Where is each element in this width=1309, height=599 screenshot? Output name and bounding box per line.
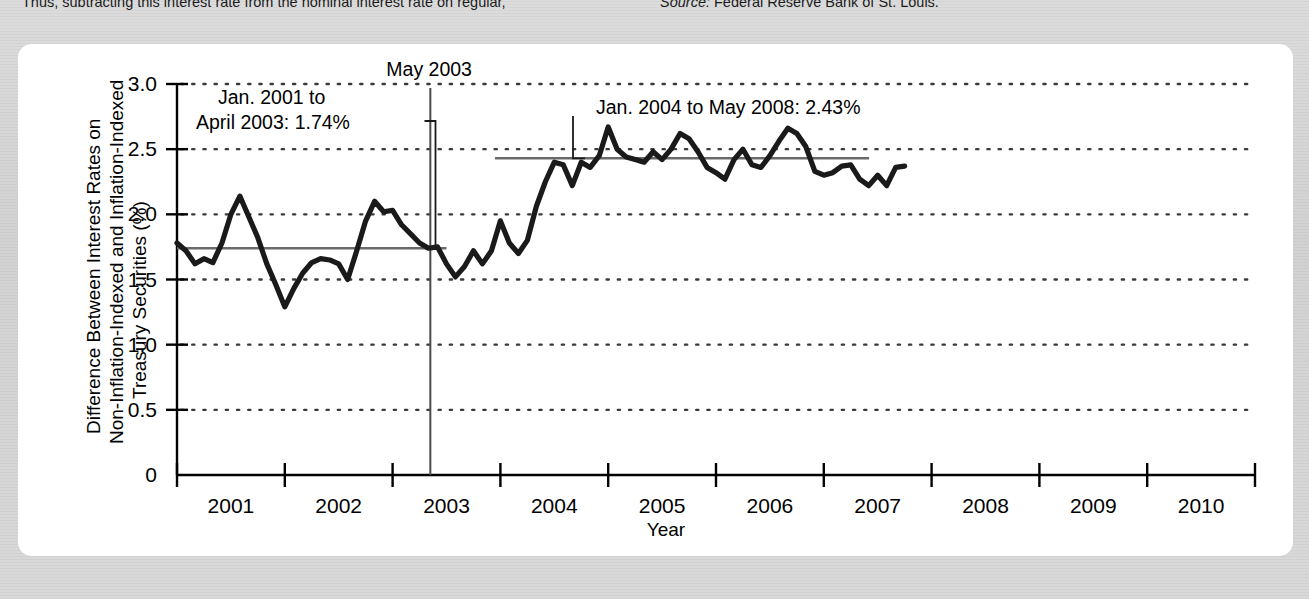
chart-figure: Difference Between Interest Rates on Non… xyxy=(18,44,1293,556)
source-label: Source: xyxy=(660,0,710,10)
x-tick-label: 2010 xyxy=(1178,494,1225,517)
y-tick-label: 1.5 xyxy=(128,268,157,291)
x-tick-label: 2002 xyxy=(315,494,362,517)
reference-label-2: Jan. 2004 to May 2008: 2.43% xyxy=(596,96,861,118)
x-tick-label: 2009 xyxy=(1070,494,1117,517)
y-axis-title-line-2: Non-Inflation-Indexed and Inflation-Inde… xyxy=(106,80,127,444)
x-tick-label: 2005 xyxy=(639,494,686,517)
x-axis-title: Year xyxy=(647,519,686,540)
reference-leader-2 xyxy=(573,116,585,158)
page-top-text-row: Thus, subtracting this interest rate fro… xyxy=(0,0,1309,18)
y-axis-title: Difference Between Interest Rates on Non… xyxy=(83,80,150,444)
y-tick-label: 1.0 xyxy=(128,333,157,356)
x-axis: 2001200220032004200520062007200820092010 xyxy=(177,463,1255,517)
figure-panel: Difference Between Interest Rates on Non… xyxy=(18,44,1293,556)
reference-label-1-line-2: April 2003: 1.74% xyxy=(196,111,350,133)
reference-label-1-line-1: Jan. 2001 to xyxy=(218,86,325,108)
reference-line-2001-2003: Jan. 2001 to April 2003: 1.74% xyxy=(177,86,447,248)
y-tick-label: 3.0 xyxy=(128,72,157,95)
source-line: Source: Federal Reserve Bank of St. Loui… xyxy=(660,0,939,10)
x-tick-label: 2003 xyxy=(423,494,470,517)
x-tick-label: 2006 xyxy=(747,494,794,517)
y-axis-title-line-3: Treasury Securities (%) xyxy=(129,201,150,399)
x-tick-label: 2007 xyxy=(854,494,901,517)
event-marker-label: May 2003 xyxy=(386,58,472,80)
x-tick-label: 2004 xyxy=(531,494,578,517)
y-tick-label: 0 xyxy=(145,463,157,486)
x-tick-label: 2008 xyxy=(962,494,1009,517)
y-tick-label: 2.5 xyxy=(128,137,157,160)
x-tick-label: 2001 xyxy=(208,494,255,517)
source-value: Federal Reserve Bank of St. Louis. xyxy=(714,0,939,10)
y-tick-label: 2.0 xyxy=(128,202,157,225)
y-tick-label: 0.5 xyxy=(128,398,157,421)
chart-svg: Difference Between Interest Rates on Non… xyxy=(18,44,1293,556)
y-axis-title-line-1: Difference Between Interest Rates on xyxy=(83,119,104,434)
body-text-fragment: Thus, subtracting this interest rate fro… xyxy=(22,0,506,10)
